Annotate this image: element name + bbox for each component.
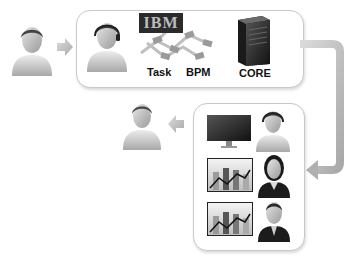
bpm-label: BPM bbox=[186, 66, 210, 78]
ibm-logo-text: IBM bbox=[142, 14, 180, 32]
arrow-left-icon bbox=[168, 115, 184, 133]
businessman-icon bbox=[257, 198, 291, 242]
agent-headset-icon bbox=[255, 108, 291, 152]
task-label: Task bbox=[147, 66, 171, 78]
monitor-icon bbox=[207, 115, 251, 149]
connector-arrow-icon bbox=[300, 40, 346, 180]
chart-icon bbox=[207, 202, 253, 236]
ibm-bpm-icon: IBM bbox=[137, 13, 217, 63]
output-customer-icon bbox=[122, 100, 162, 150]
customer-icon bbox=[10, 22, 54, 76]
server-icon bbox=[232, 14, 272, 66]
female-headset-agent-icon bbox=[257, 154, 291, 198]
core-label: CORE bbox=[239, 67, 271, 79]
arrow-right-icon bbox=[57, 38, 73, 56]
chart-icon bbox=[207, 158, 253, 192]
agent-headset-icon bbox=[86, 18, 128, 72]
